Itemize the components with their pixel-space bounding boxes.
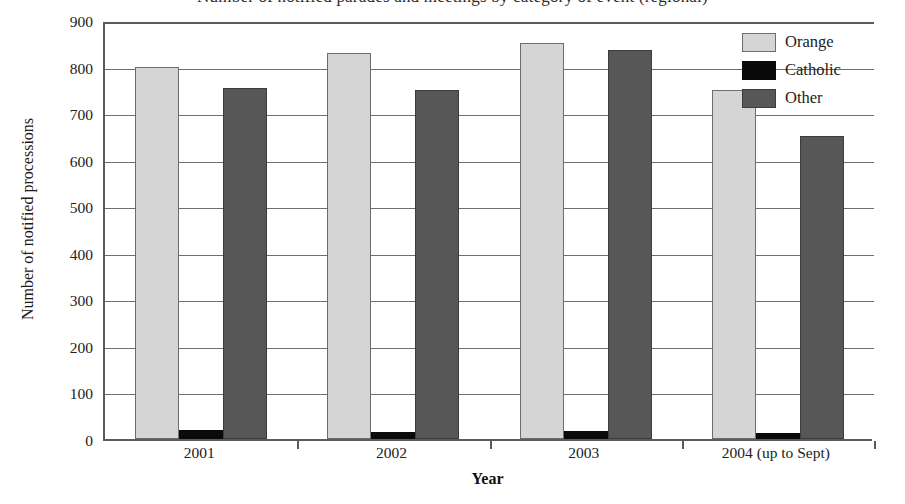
y-tick-label: 800 — [33, 60, 93, 78]
bar-orange-2002 — [327, 53, 371, 439]
legend-label: Catholic — [785, 60, 841, 80]
x-axis-title: Year — [103, 470, 872, 488]
bar-catholic-2004 — [756, 433, 800, 439]
gridline-200 — [105, 348, 874, 349]
bar-catholic-2003 — [564, 431, 608, 439]
legend-label: Orange — [785, 32, 834, 52]
legend-item-catholic[interactable]: Catholic — [742, 56, 892, 84]
x-tick-label: 2001 — [184, 444, 215, 462]
bar-orange-2004 — [712, 90, 756, 439]
gridline-400 — [105, 255, 874, 256]
y-tick-label: 600 — [33, 153, 93, 171]
y-axis-title: Number of notified processions — [19, 29, 37, 409]
x-axis-end-tick — [874, 441, 876, 449]
legend-swatch-other-icon — [742, 89, 776, 108]
gridline-700 — [105, 115, 874, 116]
chart-figure: Number of notified parades and meetings … — [0, 0, 905, 504]
legend-item-orange[interactable]: Orange — [742, 28, 892, 56]
gridline-100 — [105, 394, 874, 395]
bar-orange-2003 — [520, 43, 564, 439]
gridline-500 — [105, 208, 874, 209]
y-tick-label: 900 — [33, 13, 93, 31]
y-tick-label: 400 — [33, 246, 93, 264]
bar-other-2002 — [415, 90, 459, 439]
bar-other-2004 — [800, 136, 844, 439]
gridline-600 — [105, 162, 874, 163]
x-tick-label: 2003 — [568, 444, 599, 462]
bar-catholic-2001 — [179, 430, 223, 439]
legend-label: Other — [785, 88, 823, 108]
y-tick-label: 200 — [33, 339, 93, 357]
legend-swatch-catholic-icon — [742, 61, 776, 80]
y-tick-label: 300 — [33, 292, 93, 310]
chart-title: Number of notified parades and meetings … — [0, 0, 905, 7]
y-tick-label: 500 — [33, 199, 93, 217]
bar-other-2001 — [223, 88, 267, 439]
y-tick-label: 0 — [33, 432, 93, 450]
gridline-900 — [105, 22, 874, 24]
x-tick-label: 2004 (up to Sept) — [722, 444, 830, 462]
x-tick-label: 2002 — [376, 444, 407, 462]
legend-item-other[interactable]: Other — [742, 84, 892, 112]
y-tick-label: 700 — [33, 106, 93, 124]
gridline-300 — [105, 301, 874, 302]
y-tick-label: 100 — [33, 385, 93, 403]
bar-other-2003 — [608, 50, 652, 439]
bar-catholic-2002 — [371, 432, 415, 439]
x-tick-mark — [490, 441, 492, 449]
chart-legend: OrangeCatholicOther — [742, 28, 892, 112]
x-tick-mark — [682, 441, 684, 449]
x-tick-mark — [297, 441, 299, 449]
legend-swatch-orange-icon — [742, 33, 776, 52]
bar-orange-2001 — [135, 67, 179, 439]
